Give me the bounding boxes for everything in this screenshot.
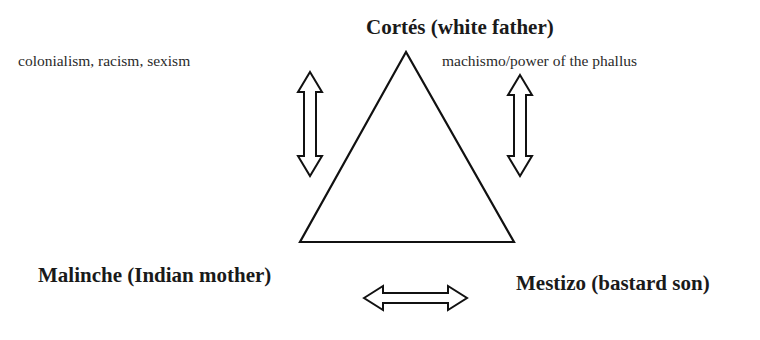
triangle-shape [300,52,514,242]
node-bottom-left-malinche: Malinche (Indian mother) [38,263,271,288]
node-bottom-right-mestizo: Mestizo (bastard son) [516,271,710,296]
left-double-arrow-icon [298,72,322,176]
edge-label-right: machismo/power of the phallus [442,52,637,70]
right-double-arrow-icon [508,75,532,176]
edge-label-left: colonialism, racism, sexism [18,52,190,70]
node-top-cortes: Cortés (white father) [366,15,554,40]
bottom-double-arrow-icon [364,286,467,310]
